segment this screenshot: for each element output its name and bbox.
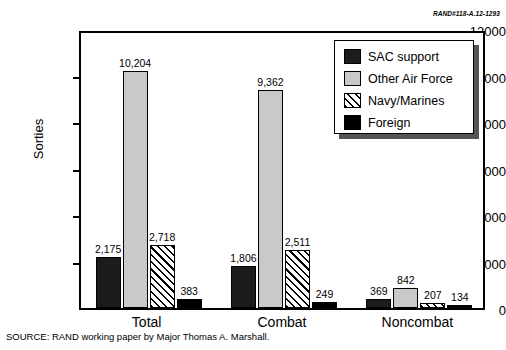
hatched-square-icon: [344, 93, 361, 108]
bar-value-label: 249: [316, 288, 334, 300]
bar-combat-sac-support: [231, 266, 256, 308]
bar-value-label: 9,362: [257, 76, 283, 88]
bar-value-label: 383: [180, 285, 198, 297]
x-group-label-combat: Combat: [257, 314, 306, 330]
bar-noncombat-other-air-force: [393, 288, 418, 308]
bar-total-sac-support: [96, 257, 121, 308]
bar-value-label: 2,718: [149, 231, 175, 243]
x-group-label-noncombat: Noncombat: [382, 314, 454, 330]
legend-item-navy-marines: Navy/Marines: [344, 90, 473, 111]
legend-item-foreign: Foreign: [344, 112, 473, 133]
legend-item-sac-support: SAC support: [344, 46, 473, 67]
y-axis-title: Sorties: [31, 94, 46, 184]
bar-total-navy-marines: [150, 245, 175, 308]
rand-document-code: RAND#118-A.12-1293: [433, 10, 500, 17]
bar-total-other-air-force: [123, 71, 148, 308]
bar-value-label: 369: [370, 285, 388, 297]
chart-screenshot: RAND#118-A.12-1293 Sorties 0200040006000…: [0, 0, 506, 350]
black-square-icon: [344, 115, 361, 130]
bar-combat-other-air-force: [258, 90, 283, 308]
bar-value-label: 2,511: [285, 236, 311, 248]
legend-label: Foreign: [368, 116, 410, 130]
legend-label: SAC support: [368, 50, 439, 64]
bar-combat-foreign: [312, 302, 337, 308]
bar-value-label: 842: [397, 274, 415, 286]
bar-noncombat-foreign: [447, 305, 472, 308]
legend-label: Navy/Marines: [368, 94, 444, 108]
dark-square-icon: [344, 49, 361, 64]
bar-value-label: 134: [451, 291, 469, 303]
bar-value-label: 1,806: [230, 252, 256, 264]
bar-value-label: 207: [424, 289, 442, 301]
bar-value-label: 10,204: [119, 57, 151, 69]
light-square-icon: [344, 71, 361, 86]
bar-value-label: 2,175: [95, 243, 121, 255]
bar-combat-navy-marines: [285, 250, 310, 308]
bar-total-foreign: [177, 299, 202, 308]
source-note: SOURCE: RAND working paper by Major Thom…: [6, 331, 269, 342]
bar-noncombat-sac-support: [366, 299, 391, 308]
chart-legend: SAC supportOther Air ForceNavy/MarinesFo…: [334, 40, 474, 134]
legend-item-other-air-force: Other Air Force: [344, 68, 473, 89]
bar-noncombat-navy-marines: [420, 303, 445, 308]
x-group-label-total: Total: [132, 314, 162, 330]
legend-label: Other Air Force: [368, 72, 453, 86]
